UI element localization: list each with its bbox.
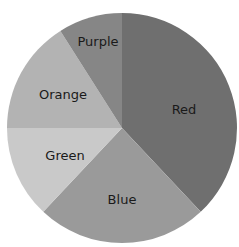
slice-label-purple: Purple bbox=[77, 34, 118, 49]
slice-label-orange: Orange bbox=[39, 87, 87, 102]
pie-slices bbox=[7, 13, 237, 243]
slice-label-red: Red bbox=[172, 102, 197, 117]
pie-chart: Red Blue Green Orange Purple bbox=[0, 0, 239, 247]
slice-label-green: Green bbox=[45, 148, 84, 163]
slice-label-blue: Blue bbox=[108, 192, 137, 207]
